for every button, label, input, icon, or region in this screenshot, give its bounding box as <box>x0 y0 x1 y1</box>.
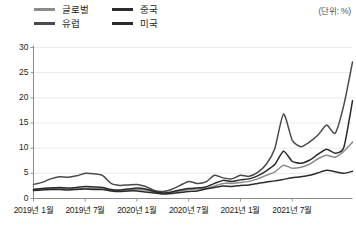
plot-area: 051015202530 2019년 1월2019년 7월2020년 1월202… <box>0 0 356 231</box>
series-line-미국 <box>34 101 353 193</box>
y-tick-label: 20 <box>7 93 29 102</box>
y-tick-label: 0 <box>7 194 29 203</box>
y-tick-label: 5 <box>7 168 29 177</box>
x-tick-label: 2020년 1월 <box>117 205 157 215</box>
x-tick-label: 2019년 1월 <box>14 205 54 215</box>
series-line-글로벌 <box>34 142 353 193</box>
x-tick-label: 2021년 1월 <box>221 205 261 215</box>
y-tick-label: 10 <box>7 143 29 152</box>
y-tick-label: 30 <box>7 43 29 52</box>
y-tick-label: 15 <box>7 118 29 127</box>
x-tick-label: 2020년 7월 <box>169 205 209 215</box>
chart-svg <box>0 0 356 231</box>
y-tick-label: 25 <box>7 68 29 77</box>
x-tick-label: 2019년 7월 <box>65 205 105 215</box>
x-tick-label: 2021년 7월 <box>272 205 312 215</box>
series-line-유럽 <box>34 62 353 191</box>
series-lines <box>34 62 353 194</box>
chart-figure: 글로벌 중국 유럽 미국 (단위: %) 051015202530 2019년 … <box>0 0 356 231</box>
